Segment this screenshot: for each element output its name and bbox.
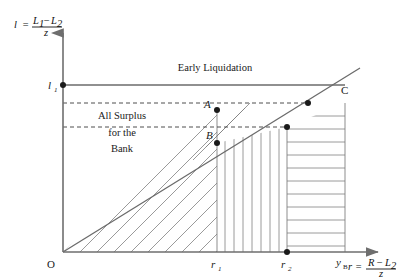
diagonal-hatch-upper-strokes (193, 103, 250, 160)
x-axis-denominator: z (378, 268, 383, 279)
x-tick-label-yB-sub: B (343, 263, 348, 271)
region-label-all-surplus-line3: Bank (111, 143, 134, 154)
point-label-A: A (203, 98, 211, 110)
region-label-early-liquidation: Early Liquidation (178, 62, 253, 73)
point-r2-base (284, 249, 290, 255)
y-axis-numerator-L2: L (50, 15, 57, 26)
origin-label: O (47, 258, 55, 270)
y-axis-tick-labels: l 1 (48, 79, 58, 94)
x-axis-equation-label: r = R − L 2 z (348, 257, 397, 279)
x-tick-label-r2: r (281, 258, 286, 270)
y-tick-label-l1: l (48, 79, 51, 91)
main-diagonal-line (63, 68, 360, 252)
y-axis-denominator: z (43, 27, 48, 38)
point-label-B: B (206, 129, 213, 141)
region-label-all-surplus-line2: for the (108, 127, 136, 138)
x-axis-numerator-R: R (367, 257, 375, 268)
region-outlines (217, 103, 345, 252)
point-C (305, 100, 311, 106)
x-axis-tick-labels: r 1 r 2 y B (211, 256, 348, 273)
diagram-canvas: l = L 1 − L 2 z r = R − L 2 z l 1 (0, 0, 407, 279)
y-tick-label-l1-sub: 1 (54, 86, 58, 94)
x-tick-label-r1: r (211, 258, 216, 270)
x-axis-numerator-L2: L (384, 257, 391, 268)
point-label-C: C (341, 84, 348, 96)
point-D (284, 124, 290, 130)
x-axis-label-equals: = (355, 261, 362, 272)
x-axis-numerator-minus: − (376, 257, 383, 268)
point-A (214, 107, 220, 113)
x-tick-label-yB: y (335, 256, 341, 268)
x-tick-label-r1-sub: 1 (218, 265, 222, 273)
y-axis-equation-label: l = L 1 − L 2 z (14, 15, 63, 38)
x-tick-label-r2-sub: 2 (288, 265, 292, 273)
vertical-hatch-region (225, 60, 279, 252)
horizontal-hatch-region (280, 116, 352, 246)
diagonal-hatch-region (63, 80, 388, 252)
point-B (214, 140, 220, 146)
region-label-all-surplus-line1: All Surplus (98, 110, 146, 121)
x-axis-label-var: r (348, 261, 353, 272)
y-axis-numerator-L1: L (32, 15, 39, 26)
y-axis-label-equals: = (22, 19, 29, 30)
y-axis-numerator-minus: − (43, 15, 50, 26)
economics-diagram-figure: l = L 1 − L 2 z r = R − L 2 z l 1 (0, 0, 407, 279)
point-l1-tick (60, 82, 66, 88)
y-axis-label-var: l (14, 19, 17, 30)
region-label-all-surplus-bank: All Surplus for the Bank (98, 110, 146, 154)
